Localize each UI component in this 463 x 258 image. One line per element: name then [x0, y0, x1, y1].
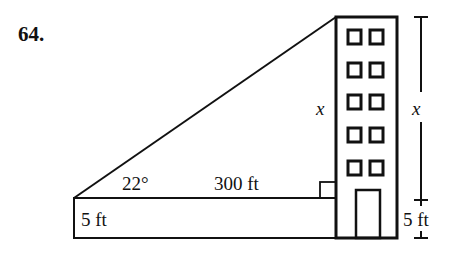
dimension-line: [414, 17, 428, 238]
building-door: [356, 190, 380, 238]
right-angle-marker: [320, 182, 336, 198]
trig-diagram: [0, 0, 463, 258]
building-windows: [348, 30, 383, 175]
angle-label: 22°: [122, 174, 149, 193]
building: [336, 17, 397, 238]
eye-height-label: 5 ft: [81, 210, 107, 229]
dimension-x-label: x: [412, 99, 420, 118]
eye-height-rect: [74, 198, 336, 238]
distance-label: 300 ft: [214, 174, 259, 193]
dimension-5ft-label: 5 ft: [403, 210, 429, 229]
building-height-label: x: [316, 99, 324, 118]
line-of-sight: [74, 17, 336, 198]
